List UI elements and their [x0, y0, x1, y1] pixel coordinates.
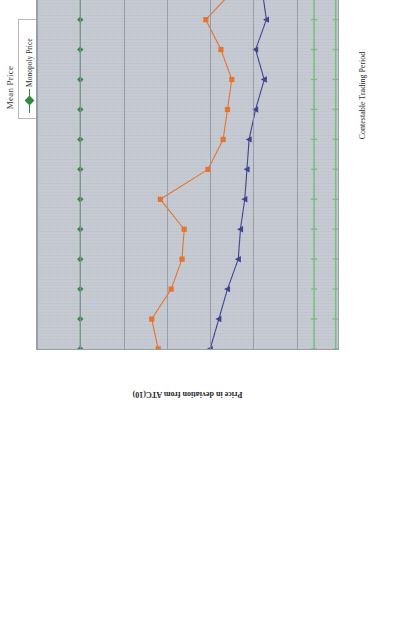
y-gridline	[297, 0, 298, 349]
x-axis-tick	[338, 348, 339, 349]
data-point-marker	[311, 139, 317, 140]
series-human-subject-buyers	[207, 0, 282, 350]
y-gridline	[80, 0, 81, 349]
x-axis-tick	[338, 79, 339, 80]
y-axis-tick	[123, 349, 124, 350]
data-point-marker	[311, 348, 317, 349]
legend-item[interactable]: Monopoly Price	[23, 26, 36, 113]
data-point-marker	[311, 109, 317, 110]
plot-area: $1.40$1.20$1.00$0.80$0.60$0.40$0.20$-123…	[36, 0, 339, 350]
series-efficient-price	[311, 0, 317, 350]
y-gridline	[210, 0, 211, 349]
data-point-marker	[149, 316, 154, 321]
data-point-marker	[311, 259, 317, 260]
data-point-marker	[218, 47, 223, 52]
y-axis-tick	[80, 349, 81, 350]
x-axis-tick	[338, 198, 339, 199]
y-gridline	[253, 0, 254, 349]
data-point-marker	[311, 318, 317, 319]
chart-page: Mean Price Monopoly PriceSimulated Buyer…	[0, 0, 405, 635]
data-point-marker	[158, 197, 163, 202]
x-axis-tick	[338, 318, 339, 319]
x-axis-tick	[338, 288, 339, 289]
rotated-figure-wrapper: Mean Price Monopoly PriceSimulated Buyer…	[0, 0, 405, 405]
data-point-marker	[311, 289, 317, 290]
series-simulated-buyers	[149, 0, 260, 350]
series-range	[332, 0, 338, 350]
data-point-marker	[311, 19, 317, 20]
data-point-marker	[311, 229, 317, 230]
legend-marker-icon	[24, 89, 36, 113]
series-line	[210, 0, 279, 349]
legend-item-label: Monopoly Price	[25, 38, 34, 89]
data-point-marker	[311, 199, 317, 200]
chart-title: Mean Price	[5, 0, 15, 405]
x-axis-tick	[338, 258, 339, 259]
y-axis-tick	[37, 349, 38, 350]
data-point-marker	[225, 107, 230, 112]
data-point-marker	[179, 257, 184, 262]
y-axis-tick	[296, 349, 297, 350]
series-layer	[37, 0, 339, 349]
data-point-marker	[203, 17, 208, 22]
data-point-marker	[156, 346, 161, 350]
x-axis-tick	[338, 19, 339, 20]
y-gridline	[124, 0, 125, 349]
y-axis-tick	[166, 349, 167, 350]
y-axis-title-text: Price in deviation from ATC(10)	[133, 389, 243, 398]
y-axis-tick	[210, 349, 211, 350]
x-axis-tick	[338, 228, 339, 229]
data-point-marker	[311, 79, 317, 80]
data-point-marker	[182, 227, 187, 232]
x-axis-tick	[338, 168, 339, 169]
y-gridline	[167, 0, 168, 349]
y-axis-tick	[253, 349, 254, 350]
data-point-marker	[311, 49, 317, 50]
chart-figure: Mean Price Monopoly PriceSimulated Buyer…	[0, 0, 405, 405]
data-point-marker	[229, 77, 234, 82]
x-axis-tick	[338, 49, 339, 50]
data-point-marker	[311, 169, 317, 170]
x-axis-tick	[338, 108, 339, 109]
y-axis-title: Price in deviation from ATC(10)	[36, 387, 339, 401]
y-gridline	[37, 0, 38, 349]
data-point-marker	[221, 137, 226, 142]
data-point-marker	[169, 287, 174, 292]
x-axis-title: Contestable Trading Period	[358, 0, 367, 350]
x-axis-tick	[338, 138, 339, 139]
